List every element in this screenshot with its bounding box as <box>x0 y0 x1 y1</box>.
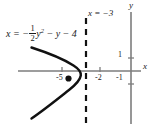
parabola-curve <box>32 48 81 119</box>
equation-label: x = −12y2 − y − 4 <box>6 24 77 42</box>
math-figure: x = −12y2 − y − 4 x = −3 y x -5 -2 1 -1 <box>0 0 156 128</box>
y-axis-label: y <box>129 1 133 10</box>
x-axis-label: x <box>143 62 147 71</box>
y-tick-label-plus1: 1 <box>118 51 122 59</box>
equation-fraction: 12 <box>29 24 35 42</box>
x-tick-label-minus2: -2 <box>95 74 102 82</box>
y-tick-label-minus1: -1 <box>116 74 123 82</box>
equation-prefix: x = − <box>6 28 29 39</box>
equation-exponent: 2 <box>41 27 44 34</box>
graph-canvas <box>0 0 156 128</box>
equation-suffix: − y − 4 <box>46 28 76 39</box>
x-tick-label-minus5: -5 <box>56 74 63 82</box>
dashed-line-label: x = −3 <box>88 9 113 18</box>
fraction-denominator: 2 <box>29 33 35 43</box>
fraction-numerator: 1 <box>29 24 35 33</box>
marked-point <box>65 75 71 81</box>
